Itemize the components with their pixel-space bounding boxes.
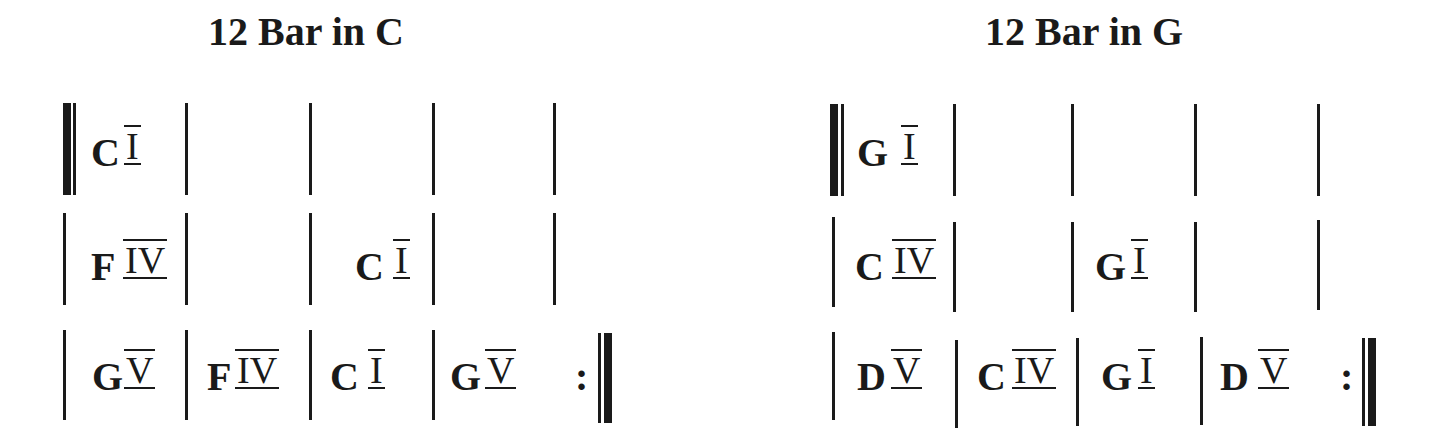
chord-symbol: C	[91, 133, 120, 173]
chord-symbol: D	[857, 357, 886, 397]
chord-symbol: C	[855, 247, 884, 287]
barline	[953, 104, 956, 196]
barline	[553, 103, 556, 195]
barline	[309, 103, 312, 195]
barline	[841, 104, 844, 196]
chord-symbol: F	[207, 357, 231, 397]
roman-numeral: V	[1258, 349, 1289, 389]
chord-symbol: G	[857, 133, 888, 173]
end-repeat-thick-barline	[604, 333, 612, 423]
roman-numeral: V	[124, 349, 155, 389]
barline	[832, 217, 835, 307]
barline	[185, 330, 188, 420]
roman-numeral: I	[901, 125, 918, 165]
chart-title-c: 12 Bar in C	[208, 8, 404, 55]
roman-numeral: I	[393, 239, 410, 279]
roman-numeral: IV	[123, 239, 167, 279]
roman-numeral: I	[1138, 349, 1155, 389]
chord-symbol: F	[91, 247, 115, 287]
chord-symbol: G	[1095, 247, 1126, 287]
roman-numeral: IV	[235, 349, 279, 389]
barline	[185, 213, 188, 305]
barline	[955, 340, 958, 428]
roman-numeral: I	[124, 125, 141, 165]
chord-symbol: G	[92, 357, 123, 397]
barline	[598, 333, 601, 423]
barline	[1200, 337, 1203, 425]
barline	[1076, 338, 1079, 426]
repeat-dots: :	[1340, 357, 1353, 397]
barline	[1362, 338, 1365, 426]
roman-numeral: I	[1131, 239, 1148, 279]
start-repeat-thick-barline	[63, 103, 71, 195]
barline	[63, 213, 66, 305]
chord-symbol: D	[1220, 357, 1249, 397]
barline	[1071, 104, 1074, 196]
chart-title-g: 12 Bar in G	[985, 8, 1183, 55]
roman-numeral: V	[891, 349, 922, 389]
barline	[63, 330, 66, 420]
barline	[1194, 104, 1197, 196]
barline	[832, 332, 835, 420]
barline	[73, 103, 76, 195]
barline	[1194, 222, 1197, 312]
roman-numeral: V	[485, 349, 516, 389]
barline	[1317, 220, 1320, 310]
end-repeat-thick-barline	[1368, 338, 1376, 426]
barline	[185, 103, 188, 195]
chord-symbol: G	[1101, 357, 1132, 397]
barline	[309, 330, 312, 420]
roman-numeral: IV	[892, 239, 936, 279]
chord-symbol: C	[330, 357, 359, 397]
roman-numeral: IV	[1012, 349, 1056, 389]
chord-symbol: G	[450, 357, 481, 397]
barline	[309, 213, 312, 305]
barline	[553, 213, 556, 305]
chord-symbol: C	[355, 247, 384, 287]
barline	[432, 213, 435, 305]
start-repeat-thick-barline	[830, 104, 838, 196]
repeat-dots: :	[575, 357, 588, 397]
barline	[1071, 222, 1074, 312]
roman-numeral: I	[368, 349, 385, 389]
barline	[953, 222, 956, 312]
barline	[432, 330, 435, 420]
barline	[432, 103, 435, 195]
chord-symbol: C	[977, 357, 1006, 397]
barline	[1317, 104, 1320, 196]
